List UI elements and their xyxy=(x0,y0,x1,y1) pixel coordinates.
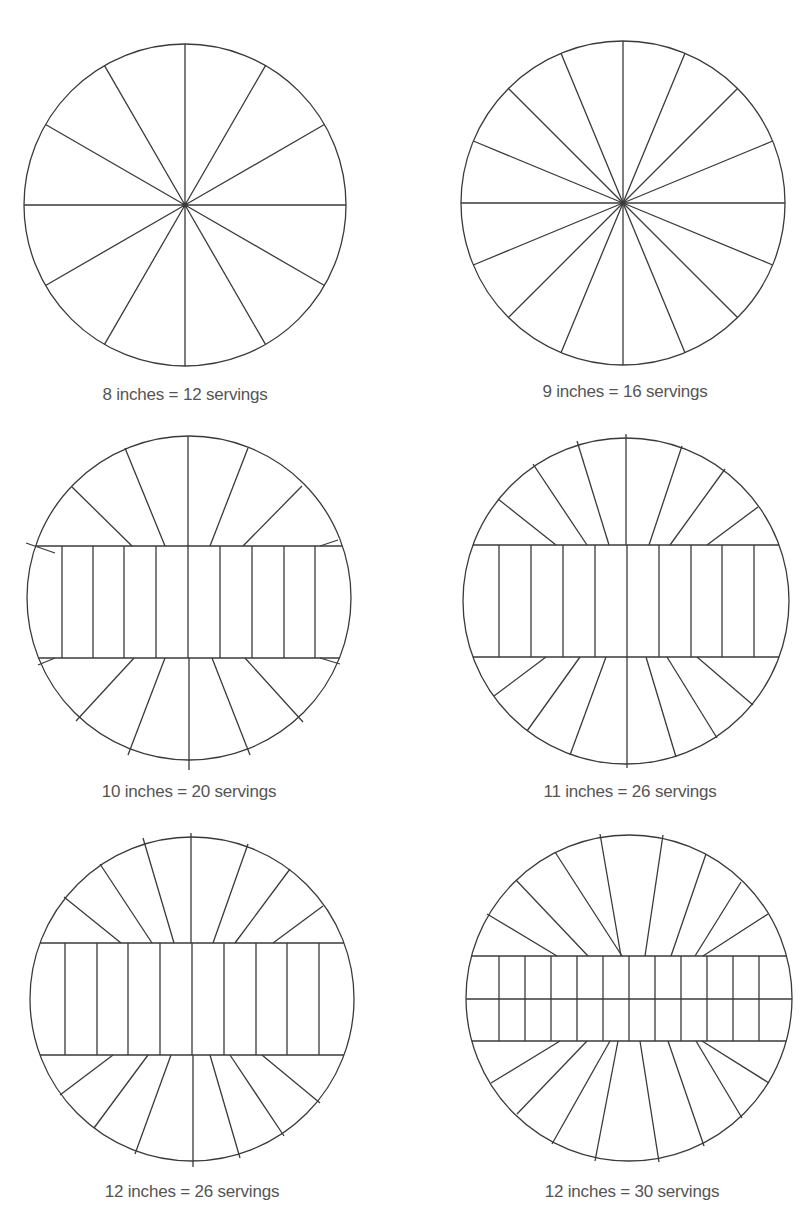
caption-8-inch: 8 inches = 12 servings xyxy=(102,385,267,405)
cake-diagram-8-inch-12 xyxy=(24,44,346,366)
cake-diagram-9-inch-16 xyxy=(461,41,785,365)
wedge-cut-top xyxy=(210,448,248,546)
wedge-cut-top xyxy=(125,448,165,546)
wedge-cut-top xyxy=(64,897,121,943)
wedge-cut-top xyxy=(645,835,663,956)
wedge-cut-top xyxy=(273,906,323,943)
wedge-cut-bottom xyxy=(517,1041,587,1114)
cake-diagram-12-inch-30 xyxy=(466,834,792,1162)
cut-line xyxy=(46,205,185,286)
wedge-cut-top xyxy=(320,540,338,546)
wedge-cut-bottom xyxy=(667,657,717,738)
wedge-cut-top xyxy=(213,844,248,943)
cut-line xyxy=(185,205,324,286)
wedge-cut-bottom xyxy=(128,658,165,755)
cut-line xyxy=(46,125,185,206)
cut-line xyxy=(508,88,623,203)
wedge-cut-bottom xyxy=(595,1041,618,1161)
caption-12-inch-26: 12 inches = 26 servings xyxy=(105,1182,279,1202)
wedge-cut-bottom xyxy=(702,1041,769,1083)
cut-line xyxy=(105,205,186,344)
cut-line xyxy=(508,203,623,318)
wedge-cut-bottom xyxy=(76,658,134,721)
cut-line xyxy=(623,203,738,318)
wedge-cut-bottom xyxy=(135,1055,171,1154)
cake-diagram-11-inch-26 xyxy=(463,434,789,768)
wedge-cut-bottom xyxy=(320,658,340,664)
wedge-cut-top xyxy=(498,499,556,545)
wedge-cut-bottom xyxy=(640,1041,659,1162)
wedge-cut-bottom xyxy=(646,657,676,757)
wedge-cut-top xyxy=(516,880,588,956)
cut-line xyxy=(105,66,186,205)
wedge-cut-top xyxy=(100,864,152,943)
wedge-cut-bottom xyxy=(94,1055,148,1128)
wedge-cut-bottom xyxy=(668,1041,704,1146)
cut-line xyxy=(623,88,738,203)
center-point xyxy=(183,203,188,208)
wedge-cut-top xyxy=(670,469,725,545)
caption-11-inch: 11 inches = 26 servings xyxy=(543,782,716,802)
diagram-canvas xyxy=(0,0,809,1223)
wedge-cut-top xyxy=(243,486,302,546)
wedge-cut-bottom xyxy=(245,658,303,722)
wedge-cut-bottom xyxy=(212,658,250,755)
wedge-cut-top xyxy=(72,487,132,546)
cake-diagram-12-inch-26 xyxy=(30,833,354,1167)
cut-line xyxy=(185,66,266,205)
wedge-cut-top xyxy=(649,446,682,545)
wedge-cut-bottom xyxy=(527,657,580,731)
cake-diagram-10-inch-20 xyxy=(26,436,351,770)
wedge-cut-top xyxy=(577,441,609,545)
wedge-cut-top xyxy=(143,838,174,943)
cut-line xyxy=(185,205,266,344)
wedge-cut-top xyxy=(703,914,768,956)
wedge-cut-bottom xyxy=(696,1041,742,1118)
wedge-cut-top xyxy=(707,507,758,545)
caption-10-inch: 10 inches = 20 servings xyxy=(102,782,276,802)
center-point xyxy=(621,201,626,206)
caption-9-inch: 9 inches = 16 servings xyxy=(542,382,707,402)
wedge-cut-bottom xyxy=(60,1055,113,1095)
wedge-cut-bottom xyxy=(697,657,753,705)
wedge-cut-top xyxy=(695,882,741,956)
wedge-cut-top xyxy=(487,914,557,956)
caption-12-inch-30: 12 inches = 30 servings xyxy=(545,1182,719,1202)
wedge-cut-top xyxy=(26,543,55,553)
wedge-cut-bottom xyxy=(494,657,546,696)
wedge-cut-bottom xyxy=(262,1055,320,1103)
wedge-cut-top xyxy=(671,854,706,956)
wedge-cut-bottom xyxy=(570,657,606,755)
wedge-cut-top xyxy=(235,869,290,943)
wedge-cut-bottom xyxy=(491,1041,560,1083)
wedge-cut-bottom xyxy=(210,1055,240,1158)
cut-line xyxy=(185,125,324,206)
